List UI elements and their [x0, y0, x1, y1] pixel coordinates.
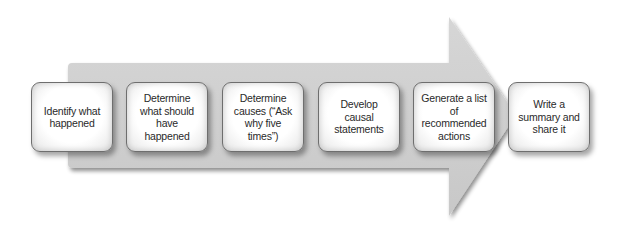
process-diagram: Identify what happened Determine what sh… — [0, 0, 620, 229]
step-1-label: Identify what happened — [38, 105, 106, 130]
step-5-box: Generate a list of recommended actions — [413, 82, 495, 152]
step-2-box: Determine what should have happened — [126, 82, 208, 152]
step-3-box: Determine causes (“Ask why five times”) — [222, 82, 304, 152]
step-5-label: Generate a list of recommended actions — [420, 92, 488, 142]
step-6-label: Write a summary and share it — [515, 98, 583, 136]
step-3-label: Determine causes (“Ask why five times”) — [229, 92, 297, 142]
step-1-box: Identify what happened — [31, 82, 113, 152]
step-2-label: Determine what should have happened — [133, 92, 201, 142]
step-4-label: Develop causal statements — [325, 98, 393, 136]
step-6-box: Write a summary and share it — [508, 82, 590, 152]
step-4-box: Develop causal statements — [318, 82, 400, 152]
